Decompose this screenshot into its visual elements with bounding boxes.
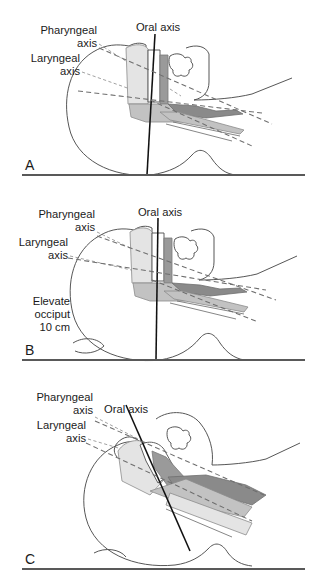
chest-contour-a bbox=[151, 150, 236, 175]
panel-letter-c: C bbox=[25, 551, 35, 567]
nasal-region-a bbox=[126, 45, 148, 104]
pharyngeal-axis-word-a: axis bbox=[77, 37, 97, 49]
oral-axis-label-a: Oral axis bbox=[136, 21, 181, 33]
oral-axis-label-b: Oral axis bbox=[138, 206, 183, 218]
panel-b-illustration: Pharyngeal axis Laryngeal axis Oral axis… bbox=[0, 188, 311, 375]
laryngeal-label-a: Laryngeal bbox=[31, 52, 80, 64]
oropharynx-b bbox=[164, 238, 172, 283]
chest-contour-c bbox=[175, 544, 252, 566]
chest-contour-b bbox=[160, 333, 244, 360]
laryngeal-axis-word-b: axis bbox=[48, 249, 68, 261]
airway-axes-figure: Pharyngeal axis Laryngeal axis Oral axis… bbox=[0, 0, 311, 583]
elevate-label-b: Elevate bbox=[33, 295, 70, 307]
posterior-neck-c bbox=[156, 413, 300, 465]
pharyngeal-axis-word-b: axis bbox=[75, 221, 95, 233]
oral-axis-label-c: Oral axis bbox=[104, 403, 149, 415]
ten-cm-label-b: 10 cm bbox=[40, 321, 70, 333]
laryngeal-label-c: Laryngeal bbox=[37, 419, 86, 431]
nasal-region-b bbox=[130, 228, 152, 283]
panel-letter-a: A bbox=[25, 157, 35, 173]
posterior-neck-b bbox=[191, 229, 297, 280]
occiput-support-b bbox=[73, 339, 104, 353]
cervical-spine-c bbox=[167, 427, 191, 449]
panel-a: Pharyngeal axis Laryngeal axis Oral axis… bbox=[0, 0, 311, 190]
oropharynx-a bbox=[160, 55, 168, 104]
pharyngeal-axis-word-c: axis bbox=[73, 404, 93, 416]
cervical-spine-b bbox=[174, 237, 198, 259]
panel-letter-b: B bbox=[25, 342, 34, 358]
panel-a-illustration: Pharyngeal axis Laryngeal axis Oral axis… bbox=[0, 0, 311, 190]
posterior-neck-a bbox=[186, 46, 292, 100]
pharyngeal-label-b: Pharyngeal bbox=[38, 208, 95, 220]
cervical-spine-a bbox=[169, 54, 193, 76]
laryngeal-axis-word-c: axis bbox=[66, 432, 86, 444]
panel-b: Pharyngeal axis Laryngeal axis Oral axis… bbox=[0, 188, 311, 375]
laryngeal-label-b: Laryngeal bbox=[19, 236, 68, 248]
pharyngeal-label-c: Pharyngeal bbox=[36, 391, 93, 403]
panel-c: Pharyngeal axis Laryngeal axis Oral axis… bbox=[0, 373, 311, 583]
pharyngeal-label-a: Pharyngeal bbox=[40, 24, 97, 36]
panel-c-illustration: Pharyngeal axis Laryngeal axis Oral axis… bbox=[0, 373, 311, 583]
occiput-label-b: occiput bbox=[35, 308, 71, 320]
laryngeal-axis-word-a: axis bbox=[60, 65, 80, 77]
